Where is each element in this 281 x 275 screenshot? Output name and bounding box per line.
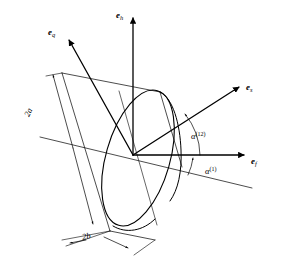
axis-label-e-f: ef — [251, 157, 257, 167]
axis-e-q — [69, 40, 133, 155]
axis-label-e-s: es — [246, 83, 253, 93]
axis-label-e-q: eq — [48, 28, 55, 38]
angle-arc-alpha-1 — [188, 158, 193, 175]
axis-label-e-f-sub: f — [255, 160, 257, 167]
angle-superscript-alpha-1: (1) — [209, 166, 216, 172]
axis-label-e-q-sub: q — [52, 31, 55, 38]
dimension-2a — [46, 73, 110, 240]
axis-label-e-h: eh — [116, 11, 123, 21]
angle-label-alpha-1: α(1) — [205, 166, 216, 175]
axis-label-e-h-sub: h — [120, 14, 123, 21]
figure-container: eh ef es eq α(12) α(1) 2a 2b — [0, 0, 281, 275]
diagram-canvas — [0, 0, 281, 275]
disk-major-axis — [119, 91, 157, 225]
axis-label-e-s-sub: s — [250, 86, 253, 93]
angle-superscript-alpha-12: (12) — [195, 131, 205, 137]
dimension-2b — [66, 231, 155, 255]
angle-label-alpha-12: α(12) — [191, 131, 205, 140]
dimension-label-2b: 2b — [81, 231, 91, 241]
axis-e-s — [133, 87, 239, 155]
